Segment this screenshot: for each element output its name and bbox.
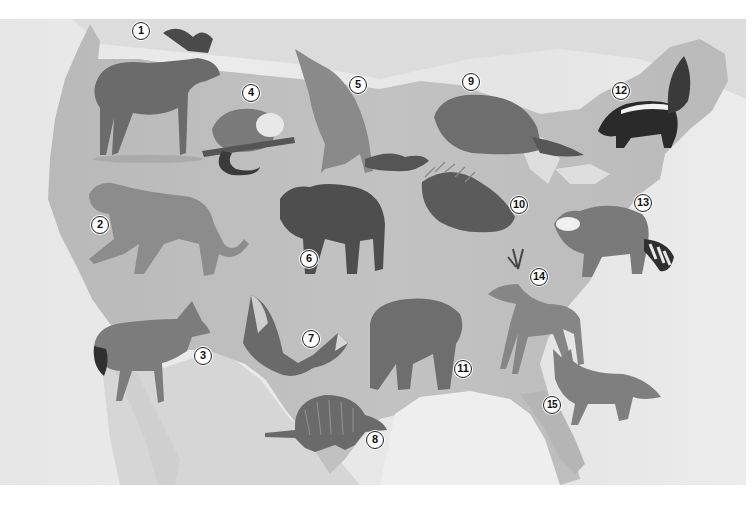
label-8: 8 — [366, 431, 384, 449]
label-12: 12 — [612, 82, 630, 100]
label-11: 11 — [454, 360, 472, 378]
label-4: 4 — [242, 84, 260, 102]
label-6: 6 — [300, 250, 318, 268]
label-1: 1 — [132, 22, 150, 40]
label-13: 13 — [634, 194, 652, 212]
gray-fox-illustration — [553, 349, 663, 429]
bison-illustration — [275, 179, 390, 279]
label-3: 3 — [194, 347, 212, 365]
beaver-illustration — [432, 87, 587, 162]
label-2: 2 — [91, 216, 109, 234]
grizzly-bear-illustration — [368, 294, 468, 394]
label-7: 7 — [302, 330, 320, 348]
label-15: 15 — [543, 396, 561, 414]
skunk-illustration — [596, 56, 696, 151]
label-5: 5 — [349, 76, 367, 94]
porcupine-illustration — [420, 162, 520, 237]
label-14: 14 — [530, 268, 548, 286]
us-animal-map: 1 4 5 9 12 — [0, 19, 746, 485]
label-9: 9 — [462, 73, 480, 91]
gray-wolf-illustration — [295, 49, 430, 179]
bat-illustration — [243, 293, 351, 391]
label-10: 10 — [510, 196, 528, 214]
opossum-illustration — [202, 89, 297, 179]
